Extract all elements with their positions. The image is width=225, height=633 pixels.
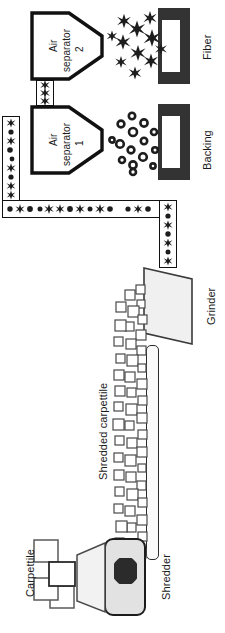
shredder-label: Shredder [160, 554, 172, 600]
carpettile-label: Carpettile [24, 549, 36, 597]
conveyor-belt [146, 345, 159, 560]
air-separator-2-line3: 2 [74, 46, 85, 52]
air-separator-2-line1: Air [48, 39, 59, 52]
duct-separator1-to-separator2 [36, 80, 54, 106]
backing-bin [146, 104, 192, 180]
fiber-bin [146, 8, 192, 84]
grinder [141, 265, 195, 347]
duct-horizontal [2, 200, 177, 218]
process-flow-diagram: Fiber [0, 0, 225, 633]
grinder-label: Grinder [205, 288, 217, 325]
duct-vertical-left [2, 116, 20, 202]
air-separator-2-line2: separator [61, 29, 72, 72]
shredded-carpettile-label: Shredded carpettile [97, 383, 109, 480]
air-separator-1-line1: Air [48, 133, 59, 146]
backing-label: Backing [201, 130, 213, 170]
feed-hopper [74, 541, 108, 614]
air-separator-1-line2: separator [61, 123, 72, 166]
fiber-label: Fiber [201, 34, 213, 60]
duct-vertical-grinder [159, 200, 177, 268]
air-separator-1-line3: 1 [74, 140, 85, 146]
shredder-blade [114, 558, 137, 584]
